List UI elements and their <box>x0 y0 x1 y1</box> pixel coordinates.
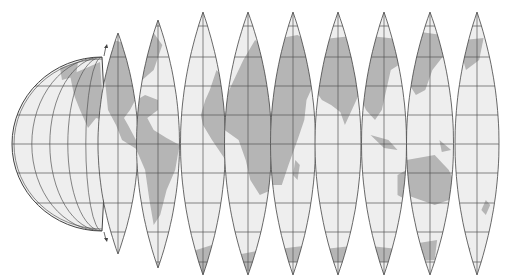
globe-gores-figure: Globe gores: a hemisphere peeling into n… <box>0 0 505 279</box>
gore-3 <box>178 12 227 275</box>
gore-7 <box>361 12 410 275</box>
gore-5 <box>270 12 319 275</box>
gores-map <box>0 0 505 279</box>
hemisphere-globe <box>0 26 106 262</box>
gore-9 <box>453 12 501 275</box>
gore-4 <box>223 12 274 275</box>
gore-6 <box>315 12 365 275</box>
gore-segments <box>95 12 501 275</box>
gore-8 <box>406 12 457 275</box>
gore-2 <box>135 20 182 268</box>
